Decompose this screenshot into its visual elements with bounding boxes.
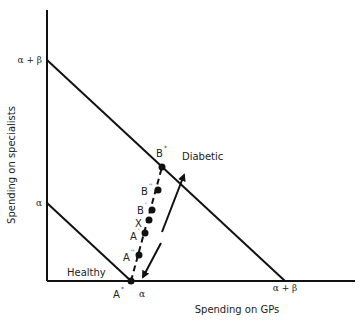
point-A-dprime bbox=[136, 252, 143, 259]
healthy-label: Healthy bbox=[67, 267, 106, 278]
y-axis-title: Spending on specialists bbox=[6, 106, 17, 224]
label-B-prime: B bbox=[137, 205, 144, 216]
point-A-star bbox=[128, 278, 135, 285]
label-A-prime: A bbox=[130, 231, 137, 242]
label-A-dprime-sup: '' bbox=[131, 248, 135, 255]
point-B-star bbox=[159, 164, 166, 171]
point-A-prime bbox=[142, 230, 149, 237]
budget-diagram: α + β α α α + β Spending on GPs Spending… bbox=[0, 0, 364, 323]
point-X bbox=[146, 217, 153, 224]
x-tick-alpha: α bbox=[139, 289, 145, 299]
label-B-dprime-sup: '' bbox=[149, 182, 153, 189]
arrow-up bbox=[162, 175, 184, 232]
point-B-dprime bbox=[155, 187, 162, 194]
x-tick-alpha-beta: α + β bbox=[273, 283, 298, 293]
label-B-star: B bbox=[156, 148, 163, 159]
arrow-down bbox=[143, 243, 161, 277]
label-B-star-sup: * bbox=[164, 144, 167, 151]
label-B-dprime: B bbox=[141, 186, 148, 197]
label-B-prime-sup: ' bbox=[145, 201, 147, 208]
diabetic-budget-line bbox=[47, 60, 285, 281]
label-A-star-sup: * bbox=[121, 285, 124, 292]
label-A-dprime: A bbox=[123, 252, 130, 263]
point-B-prime bbox=[149, 207, 156, 214]
diabetic-label: Diabetic bbox=[182, 151, 223, 162]
label-A-star: A bbox=[113, 289, 120, 300]
x-axis-title: Spending on GPs bbox=[195, 304, 280, 315]
y-tick-alpha-beta: α + β bbox=[17, 55, 42, 65]
y-tick-alpha: α bbox=[36, 198, 42, 208]
